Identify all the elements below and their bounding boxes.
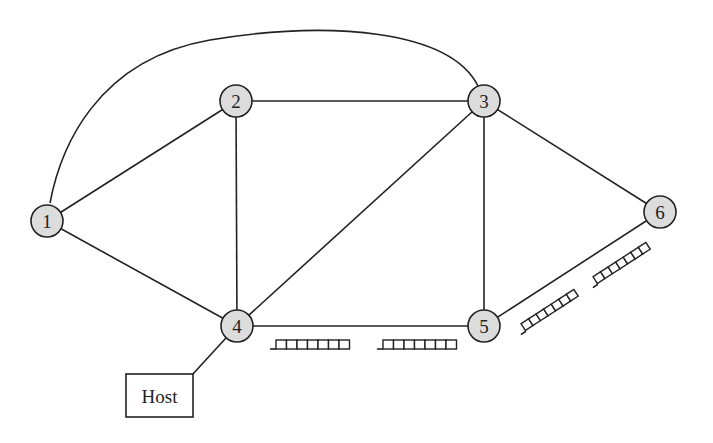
queue-6-to-5 [588, 242, 651, 287]
node-label: 2 [231, 91, 241, 112]
host-label: Host [142, 386, 179, 407]
node-3: 3 [468, 85, 500, 117]
edge-1-2 [47, 101, 236, 221]
node-4: 4 [221, 310, 253, 342]
queue-5-to-6 [516, 289, 579, 334]
node-label: 6 [655, 202, 665, 223]
node-5: 5 [468, 310, 500, 342]
node-1: 1 [31, 205, 63, 237]
node-6: 6 [644, 196, 676, 228]
node-label: 5 [479, 316, 489, 337]
network-diagram: Host 1 2 3 4 5 6 [0, 0, 713, 443]
node-label: 4 [232, 316, 242, 337]
queue-5-to-4 [377, 340, 457, 349]
edge-1-4 [47, 221, 237, 326]
edge-3-6 [484, 101, 660, 212]
edge-3-4 [237, 101, 484, 326]
node-label: 1 [42, 211, 52, 232]
edge-1-3 [50, 31, 478, 203]
node-label: 3 [479, 91, 489, 112]
host: Host [126, 374, 193, 417]
node-2: 2 [220, 85, 252, 117]
edge-2-4 [236, 101, 237, 326]
queue-4-to-5 [270, 340, 350, 349]
edge-5-6 [484, 212, 660, 326]
